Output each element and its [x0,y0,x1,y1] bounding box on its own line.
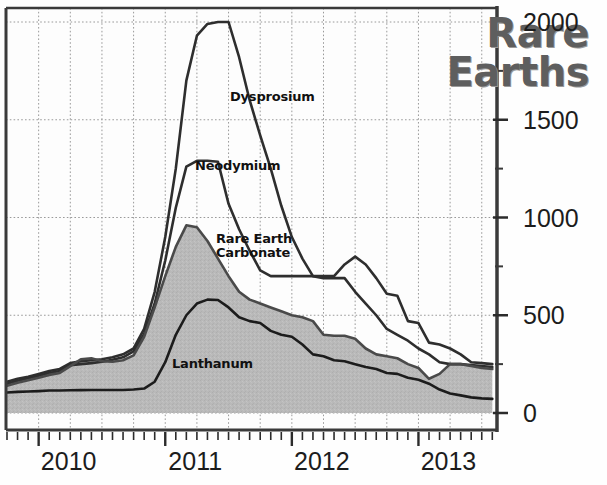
series-label-lanthanum: Lanthanum [172,357,253,371]
x-axis-label-2012: 2012 [294,447,350,476]
x-axis-ticks [7,432,492,446]
y-axis-label-0: 0 [523,399,537,428]
chart-root: Rare Earths 0500100015002000 20102011201… [0,0,607,485]
y-axis-label-500: 500 [523,301,565,330]
y-axis-label-1000: 1000 [523,203,579,232]
series-label-dysprosium: Dysprosium [230,90,315,104]
x-axis-label-2010: 2010 [41,447,97,476]
x-axis-label-2011: 2011 [168,447,222,476]
y-axis-label-1500: 1500 [523,105,579,134]
x-axis-label-2013: 2013 [421,447,477,476]
series-label-rare-earth: Rare Earth Carbonate [216,232,292,259]
series-label-neodymium: Neodymium [195,159,280,173]
y-axis-label-2000: 2000 [523,8,579,37]
